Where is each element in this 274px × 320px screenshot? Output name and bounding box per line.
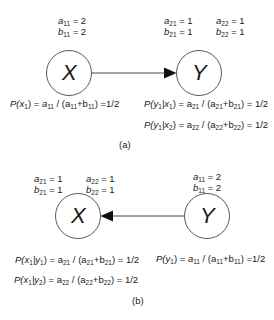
node-y-label-a: Y	[192, 62, 207, 84]
node-x-label-a: X	[62, 62, 77, 84]
formula-p-y1-given-x2: P(y1|x2) = a22 / (a22+b22) = 1/2	[144, 119, 268, 133]
param-b11-a: b11 = 2	[58, 26, 86, 40]
param-b22-b: b22 = 1	[86, 184, 115, 198]
caption-b: (b)	[132, 295, 144, 306]
param-b21-a: b21 = 1	[164, 26, 193, 40]
arrowhead-b	[101, 211, 114, 222]
formula-p-x1: P(x1) = a11 / (a11+b11) =1/2	[10, 98, 119, 112]
node-x-label-b: X	[71, 205, 86, 227]
formula-p-y1: P(y1) = a11 / (a11+b11) =1/2	[156, 253, 265, 267]
node-y-label-b: Y	[200, 205, 215, 227]
param-b22-a: b22 = 1	[216, 26, 245, 40]
diagram-edges	[0, 0, 274, 320]
formula-p-x1-given-y2: P(x1|y2) = a22 / (a22+b22) = 1/2	[14, 274, 138, 288]
arrowhead-a	[164, 68, 177, 79]
param-b21-b: b21 = 1	[34, 184, 63, 198]
formula-p-y1-given-x1: P(y1|x1) = a21 / (a21+b21) = 1/2	[144, 98, 268, 112]
formula-p-x1-given-y1: P(x1|y1) = a21 / (a21+b21) = 1/2	[15, 254, 139, 268]
caption-a: (a)	[119, 139, 131, 150]
param-b11-b: b11 = 2	[193, 182, 221, 196]
